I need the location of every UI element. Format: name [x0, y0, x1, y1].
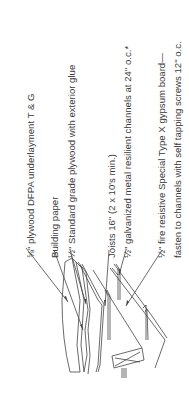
leader-gypsum	[126, 250, 162, 306]
label-plywood-underlayment: ⅝" plywood DFPA underlayment T & G	[25, 94, 36, 258]
label-building-paper: Building paper	[49, 197, 60, 258]
label-gypsum-board-2: fasten to channels with self tapping scr…	[172, 41, 183, 258]
label-joists: Joists 16" (2 x 10's min.)	[106, 154, 117, 258]
label-resilient-channels: ½" galvanized metal resilient channels a…	[122, 46, 133, 258]
label-gypsum-board-1: ½" fire resistive Special Type X gypsum …	[156, 53, 167, 258]
label-standard-plywood: ½" Standard grade plywood with exterior …	[66, 65, 77, 258]
